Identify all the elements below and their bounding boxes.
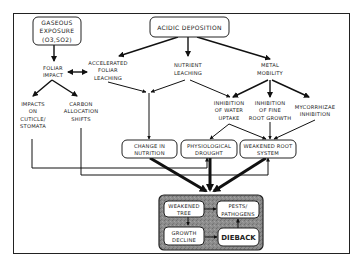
node-inhibition-fine-root: INHIBITION OF FINE ROOT GROWTH xyxy=(249,100,292,121)
node-label: TREE xyxy=(176,210,191,216)
node-label: OF WATER xyxy=(215,107,244,113)
node-label: PHYSIOLOGICAL xyxy=(187,143,231,149)
arrow-metal-water xyxy=(233,80,268,97)
connectors xyxy=(32,37,315,191)
arrow-accel-junction xyxy=(108,82,146,92)
node-label: EXPOSURE xyxy=(40,27,75,34)
node-label: IMPACT xyxy=(43,72,64,78)
node-label: LEACHING xyxy=(174,70,202,76)
node-label: WEAKENED xyxy=(168,203,199,209)
node-physiological-drought: PHYSIOLOGICAL DROUGHT xyxy=(181,140,237,158)
node-label: INHIBITION xyxy=(214,100,245,106)
node-label: ACCELERATED xyxy=(88,60,127,66)
arrow-nutrient-water xyxy=(190,80,230,97)
arrow-acidic-accel xyxy=(119,37,178,56)
arrow-acidic-metal xyxy=(197,37,270,59)
node-label: PATHOGENS xyxy=(221,211,254,217)
node-label: ALLOCATION xyxy=(64,108,99,114)
arrow-foliar-carbon xyxy=(52,80,77,96)
node-label: DROUGHT xyxy=(195,150,224,156)
node-inhibition-water-uptake: INHIBITION OF WATER UPTAKE xyxy=(214,100,245,121)
node-label: LEACHING xyxy=(94,75,122,81)
node-label: MOBILITY xyxy=(257,70,284,76)
node-label: DECLINE xyxy=(172,237,196,243)
node-label: NUTRITION xyxy=(134,150,164,156)
decline-panel: WEAKENED TREE PESTS/ PATHOGENS GROWTH DE… xyxy=(159,195,263,250)
node-label: INHIBITION xyxy=(255,100,286,106)
node-label: PESTS/ xyxy=(228,203,247,209)
node-growth-decline: GROWTH DECLINE xyxy=(164,227,204,245)
node-label: (O3,SO2) xyxy=(42,36,72,43)
node-label: CUTICLE/ xyxy=(20,116,45,122)
arrow-myco-root xyxy=(274,120,315,139)
arrow-metal-myco xyxy=(272,80,309,97)
node-acidic-deposition: ACIDIC DEPOSITION xyxy=(150,17,229,37)
node-label: GROWTH xyxy=(171,230,196,236)
node-label: ACIDIC DEPOSITION xyxy=(157,24,222,31)
node-label: SYSTEM xyxy=(257,150,279,156)
arrow-foliar-impacts xyxy=(33,80,52,96)
node-carbon-allocation: CARBON ALLOCATION SHIFTS xyxy=(64,101,99,122)
arrow-water-phys xyxy=(210,124,229,139)
node-label: MYCORRHIZAE xyxy=(295,104,335,110)
node-label: UPTAKE xyxy=(218,115,239,121)
node-label: METAL xyxy=(261,62,279,68)
node-label: OF FINE xyxy=(259,107,281,113)
node-impacts-cuticle: IMPACTS ON CUTICLE/ STOMATA xyxy=(20,101,46,129)
node-label: FOLIAR xyxy=(98,67,118,73)
node-label: FOLIAR xyxy=(43,65,63,71)
arrow-water-root xyxy=(229,124,266,139)
node-label: CARBON xyxy=(69,101,92,107)
node-label: CHANGE IN xyxy=(134,143,165,149)
node-weakened-root-system: WEAKENED ROOT SYSTEM xyxy=(240,140,296,158)
node-label: IMPACTS xyxy=(21,101,45,107)
node-label: NUTRIENT xyxy=(174,62,203,68)
arrow-nutrient-junction xyxy=(151,80,185,92)
node-label: SHIFTS xyxy=(71,116,90,122)
node-label: WEAKENED ROOT xyxy=(244,143,294,149)
node-gaseous-exposure: GASEOUS EXPOSURE (O3,SO2) xyxy=(33,17,81,45)
node-label: ON xyxy=(29,108,37,114)
decline-diagram: GASEOUS EXPOSURE (O3,SO2) ACIDIC DEPOSIT… xyxy=(0,0,355,262)
node-change-in-nutrition: CHANGE IN NUTRITION xyxy=(122,140,177,158)
node-label: ROOT GROWTH xyxy=(249,115,292,121)
node-mycorrhizae-inhibition: MYCORRHIZAE INHIBITION xyxy=(295,104,335,117)
node-foliar-impact: FOLIAR IMPACT xyxy=(43,65,64,78)
node-weakened-tree: WEAKENED TREE xyxy=(164,201,204,217)
node-label: STOMATA xyxy=(20,123,46,129)
node-label: DIEBACK xyxy=(221,234,256,242)
node-accelerated-foliar-leaching: ACCELERATED FOLIAR LEACHING xyxy=(88,60,127,81)
node-pests-pathogens: PESTS/ PATHOGENS xyxy=(217,201,259,218)
node-label: INHIBITION xyxy=(300,111,331,117)
node-metal-mobility: METAL MOBILITY xyxy=(257,62,284,76)
node-label: GASEOUS xyxy=(41,19,72,26)
node-nutrient-leaching: NUTRIENT LEACHING xyxy=(174,62,203,76)
node-dieback: DIEBACK xyxy=(218,228,259,246)
